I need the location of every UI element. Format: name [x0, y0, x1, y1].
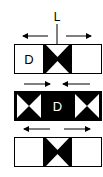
diagram-canvas: L D D: [0, 0, 103, 177]
panel-2: D: [14, 91, 102, 121]
label-l: L: [54, 10, 61, 24]
panel-2-label: D: [53, 99, 62, 114]
panel-3: [15, 137, 102, 167]
panel-1: D: [15, 44, 102, 74]
panel-1-label: D: [24, 52, 33, 67]
